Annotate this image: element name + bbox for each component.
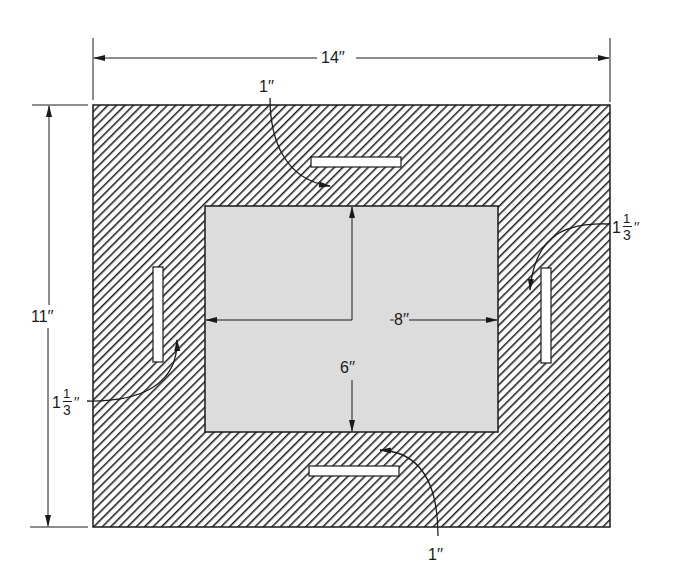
slot-top [311, 157, 401, 167]
inch-mark: ′′ [634, 220, 639, 234]
slot-left [153, 267, 163, 362]
slot-right [541, 268, 551, 363]
fraction-numerator: 1 [63, 387, 70, 400]
fraction-denominator: 3 [63, 403, 71, 417]
label-top-slot-1-inch: 1′′ [259, 79, 274, 95]
label-bottom-slot-1-inch: 1′′ [428, 547, 443, 563]
label-right-slot-fraction: 1 1 3 ′′ [612, 214, 652, 248]
diagram-canvas [0, 0, 690, 587]
fraction-denominator: 3 [623, 228, 631, 242]
label-6-inches: 6′′ [340, 360, 355, 376]
fraction-whole: 1 [612, 220, 621, 236]
width-dimension-14 [93, 38, 610, 102]
label-8-inches: 8′′ [394, 312, 409, 328]
label-14-inches: 14′′ [321, 50, 345, 66]
fraction-numerator: 1 [623, 212, 630, 225]
label-11-inches: 11′′ [31, 309, 54, 325]
fraction-whole: 1 [52, 395, 61, 411]
label-left-slot-fraction: 1 1 3 ′′ [52, 389, 92, 423]
inch-mark: ′′ [74, 395, 79, 409]
slot-bottom [309, 466, 399, 476]
